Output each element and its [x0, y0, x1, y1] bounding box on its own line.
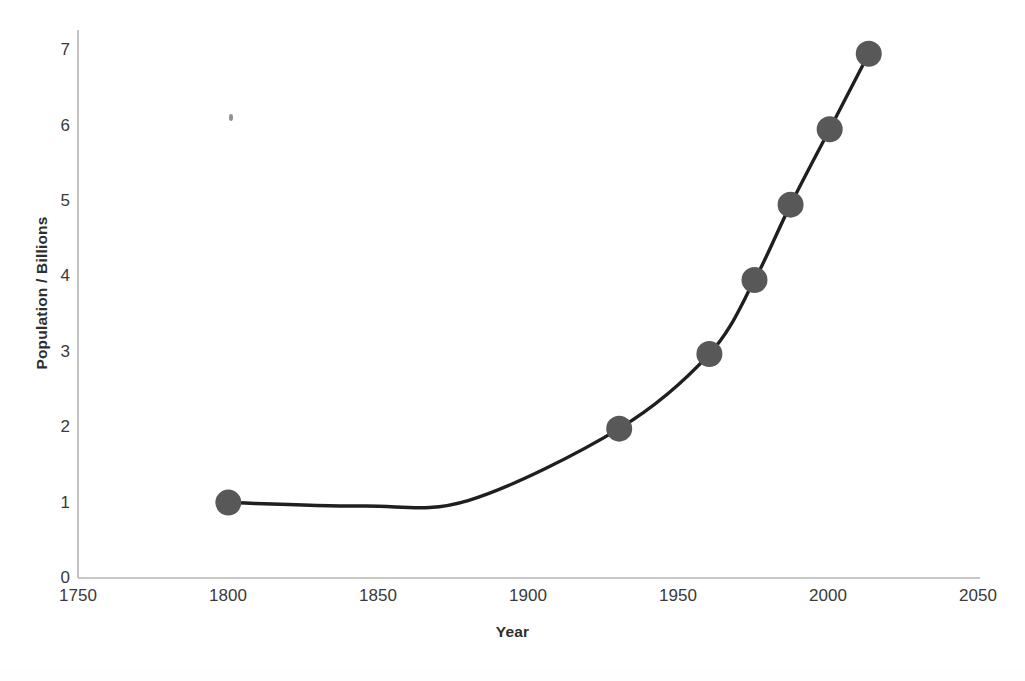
data-point-markers: [215, 41, 881, 516]
data-point-1800: [215, 490, 241, 516]
population-line-chart: Population / Billions 7 6 5 4 3 2 1 0 17…: [0, 0, 1025, 681]
data-point-1987: [778, 192, 804, 218]
x-axis-title: Year: [0, 623, 1025, 641]
data-point-2013: [856, 41, 882, 67]
scan-artifact-speck: [229, 114, 233, 121]
data-point-1930: [606, 416, 632, 442]
plot-area: [0, 0, 1025, 681]
data-point-1975: [742, 267, 768, 293]
top-crop-edge: [0, 0, 1025, 3]
data-point-1960: [696, 341, 722, 367]
bottom-edge-band: [0, 668, 1025, 681]
data-series-line: [228, 54, 868, 508]
data-point-2000: [817, 116, 843, 142]
